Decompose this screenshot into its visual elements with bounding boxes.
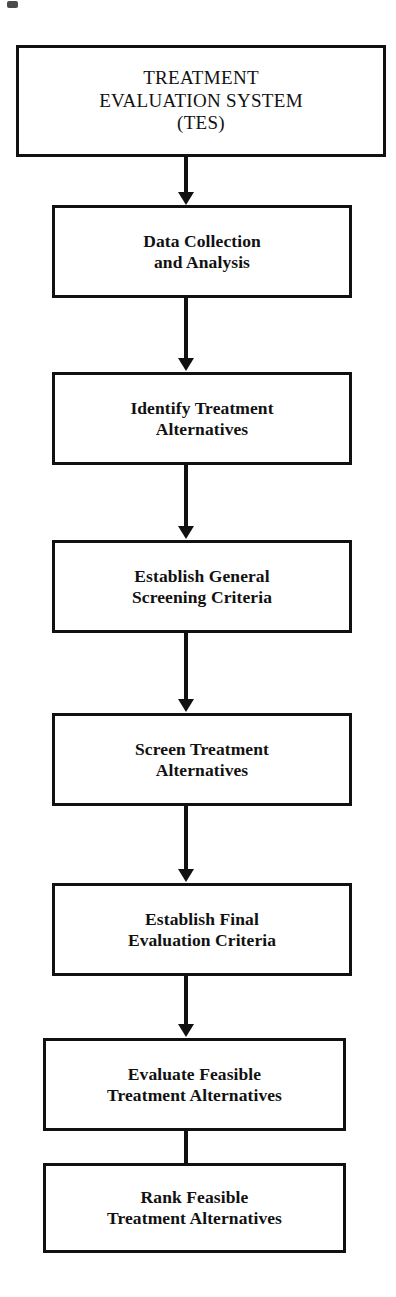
flow-node-establish-final-evaluation-criteria: Establish Final Evaluation Criteria (52, 883, 352, 976)
flow-node-label: Data Collection and Analysis (143, 231, 261, 272)
flow-node-label: Rank Feasible Treatment Alternatives (107, 1187, 282, 1228)
flow-node-label: TREATMENT EVALUATION SYSTEM (TES) (99, 67, 303, 135)
flow-node-identify-treatment-alternatives: Identify Treatment Alternatives (52, 372, 352, 465)
flowchart-diagram: TREATMENT EVALUATION SYSTEM (TES) Data C… (0, 0, 396, 1297)
flow-node-label: Screen Treatment Alternatives (135, 739, 269, 780)
flow-node-treatment-evaluation-system: TREATMENT EVALUATION SYSTEM (TES) (16, 45, 386, 157)
flow-node-label: Establish Final Evaluation Criteria (128, 909, 276, 950)
flow-node-evaluate-feasible-treatment-alternatives: Evaluate Feasible Treatment Alternatives (43, 1038, 346, 1131)
scan-artifact-mark (7, 1, 18, 8)
flow-node-label: Identify Treatment Alternatives (130, 398, 273, 439)
flow-node-screen-treatment-alternatives: Screen Treatment Alternatives (52, 713, 352, 806)
flow-node-label: Establish General Screening Criteria (132, 566, 272, 607)
flow-node-data-collection-and-analysis: Data Collection and Analysis (52, 205, 352, 298)
flow-node-establish-general-screening-criteria: Establish General Screening Criteria (52, 540, 352, 633)
flow-node-rank-feasible-treatment-alternatives: Rank Feasible Treatment Alternatives (43, 1163, 346, 1253)
flow-node-label: Evaluate Feasible Treatment Alternatives (107, 1064, 282, 1105)
